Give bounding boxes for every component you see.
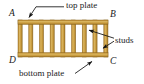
vertex-label-a: A <box>9 9 15 19</box>
bottom-plate-label: bottom plate <box>19 69 64 78</box>
top-plate-member <box>18 20 108 24</box>
top-plate-leader <box>29 7 64 18</box>
top-plate-label: top plate <box>66 1 97 10</box>
studs-group <box>18 20 108 57</box>
stud-1 <box>29 20 33 57</box>
stud-left-post <box>18 20 22 57</box>
stud-5 <box>72 20 76 57</box>
bottom-plate-leader <box>75 62 92 74</box>
vertex-label-d: D <box>9 56 16 66</box>
bottom-plate-member <box>18 53 108 57</box>
stud-4 <box>61 20 65 57</box>
wall-frame-diagram: A B C D top plate studs bottom plate <box>0 0 144 84</box>
stud-7 <box>93 20 97 57</box>
stud-6 <box>82 20 86 57</box>
vertex-label-b: B <box>110 10 116 20</box>
vertex-label-c: C <box>110 57 116 67</box>
studs-label: studs <box>115 36 134 45</box>
stud-3 <box>50 20 54 57</box>
stud-right-post <box>104 20 108 57</box>
stud-2 <box>39 20 43 57</box>
